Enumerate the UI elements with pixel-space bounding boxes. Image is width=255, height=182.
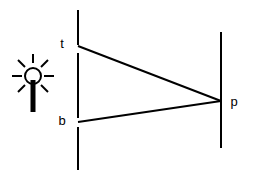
label-p: p	[230, 94, 237, 109]
top-ray	[78, 46, 221, 101]
ray-diagram-svg: t b p	[0, 0, 255, 182]
sun-light-icon	[12, 54, 54, 112]
label-b: b	[58, 113, 65, 128]
label-t: t	[60, 36, 64, 51]
bottom-ray	[78, 101, 221, 122]
diagram-canvas: t b p	[0, 0, 255, 182]
